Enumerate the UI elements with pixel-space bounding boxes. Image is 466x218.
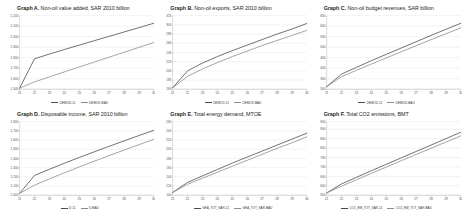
svg-text:2,000: 2,000 [11,35,19,39]
legend-label: DEMOD-BAU [396,101,415,105]
legend: DEMOD-11 DEMOD-BAU [4,100,155,110]
svg-text:120: 120 [167,184,172,188]
svg-text:29: 29 [444,91,448,95]
panel-graph-f: Graph F. Total CO2 emissions, BMT 550600… [311,111,462,216]
svg-text:27: 27 [107,196,111,200]
svg-text:180: 180 [167,156,172,160]
svg-text:1,900: 1,900 [11,45,19,49]
legend-item[interactable]: DEMOD-BAU [234,101,261,105]
svg-text:21: 21 [171,91,175,95]
svg-text:30: 30 [152,91,155,95]
legend-item[interactable]: GEA_TOT_SAR-BAU [234,206,272,210]
panel-graph-c: Graph C. Non-oil budget revenues, SAR bi… [311,5,462,110]
svg-text:1,200: 1,200 [11,174,19,178]
panel-subtitle: Non-oil exports, SAR 2010 billion [193,5,272,11]
svg-text:22: 22 [33,196,37,200]
svg-text:23: 23 [354,91,358,95]
panel-label: Graph D. [17,111,39,117]
svg-text:25: 25 [78,196,82,200]
svg-text:600: 600 [320,24,325,28]
svg-text:1,800: 1,800 [11,119,19,123]
svg-text:28: 28 [429,91,433,95]
legend-label: D-11 [69,206,75,210]
svg-text:21: 21 [325,196,329,200]
line-chart-svg: 5506006507007508008509009402122232425262… [311,119,462,206]
plot-area: 5506006507007508008509009402122232425262… [311,119,462,206]
legend-item[interactable]: DEMOD-BAU [387,101,414,105]
legend-swatch-icon [61,208,68,209]
legend-swatch-icon [358,102,365,103]
legend-item[interactable]: GEA_TOT_SAR-11 [194,206,229,210]
legend-label: DEMOD-BAU [89,101,108,105]
legend-label: CO2_EM_TOT_SAR-BAU [396,206,432,210]
legend-swatch-icon [194,208,201,209]
legend-swatch-icon [387,208,394,209]
svg-text:25: 25 [231,91,235,95]
small-multiples-figure: Graph A. Non-oil value added, SAR 2010 b… [0,0,466,218]
svg-text:30: 30 [459,91,462,95]
panel-label: Graph C. [324,5,346,11]
panel-subtitle: Non-oil budget revenues, SAR billion [346,5,434,11]
line-chart-svg: 3003504004505005506006502122232425262728… [311,13,462,100]
legend-swatch-icon [205,102,212,103]
svg-text:22: 22 [339,91,343,95]
svg-text:27: 27 [414,196,418,200]
plot-area: 1,5001,6001,7001,8001,9002,0002,1002,200… [4,13,155,100]
panel-subtitle: Total energy demand, MTOE [192,111,261,117]
svg-text:350: 350 [320,77,325,81]
legend-item[interactable]: D-11 [61,206,76,210]
svg-text:28: 28 [429,196,433,200]
svg-text:22: 22 [33,91,37,95]
svg-text:22: 22 [186,91,190,95]
plot-area: 1001201401601802002202402602122232425262… [157,119,308,206]
svg-text:22: 22 [186,196,190,200]
legend-label: DEMOD-BAU [242,101,261,105]
svg-text:850: 850 [320,136,325,140]
legend-swatch-icon [234,102,241,103]
svg-text:2,200: 2,200 [11,14,19,18]
legend-swatch-icon [341,208,348,209]
panel-graph-a: Graph A. Non-oil value added, SAR 2010 b… [4,5,155,110]
legend-item[interactable]: D-BAU [81,206,99,210]
svg-text:265: 265 [167,41,172,45]
legend-item[interactable]: DEMOD-11 [51,101,75,105]
svg-text:21: 21 [325,91,329,95]
legend-item[interactable]: DEMOD-11 [358,101,382,105]
legend-label: DEMOD-11 [366,101,382,105]
svg-text:1,800: 1,800 [11,56,19,60]
legend-label: DEMOD-11 [213,101,229,105]
legend-swatch-icon [81,208,88,209]
svg-text:30: 30 [459,196,462,200]
svg-text:24: 24 [63,196,67,200]
svg-text:205: 205 [167,69,172,73]
legend-item[interactable]: CO2_EM_TOT_SAR-BAU [387,206,432,210]
legend-item[interactable]: DEMOD-11 [205,101,229,105]
svg-text:225: 225 [167,60,172,64]
svg-text:24: 24 [216,91,220,95]
legend-item[interactable]: CO2_EM_TOT_SAR-11 [341,206,382,210]
svg-text:21: 21 [171,196,175,200]
svg-text:29: 29 [290,91,294,95]
legend-label: CO2_EM_TOT_SAR-11 [349,206,382,210]
legend: GEA_TOT_SAR-11 GEA_TOT_SAR-BAU [157,205,308,215]
panel-title: Graph C. Non-oil budget revenues, SAR bi… [324,5,462,12]
svg-text:600: 600 [320,183,325,187]
legend-swatch-icon [51,102,58,103]
svg-text:24: 24 [369,91,373,95]
svg-text:23: 23 [354,196,358,200]
panel-subtitle: Total CO2 emissions, BMT [345,111,409,117]
legend: CO2_EM_TOT_SAR-11 CO2_EM_TOT_SAR-BAU [311,205,462,215]
panel-title: Graph B. Non-oil exports, SAR 2010 billi… [170,5,308,12]
svg-text:29: 29 [444,196,448,200]
svg-text:26: 26 [399,196,403,200]
svg-text:29: 29 [290,196,294,200]
line-chart-svg: 1651852052252452652853053252122232425262… [157,13,308,100]
svg-text:28: 28 [276,196,280,200]
svg-text:21: 21 [18,196,22,200]
legend-item[interactable]: DEMOD-BAU [81,101,108,105]
panel-title: Graph F. Total CO2 emissions, BMT [324,111,462,118]
svg-text:28: 28 [122,196,126,200]
svg-text:24: 24 [63,91,67,95]
svg-text:26: 26 [92,196,96,200]
svg-text:27: 27 [414,91,418,95]
